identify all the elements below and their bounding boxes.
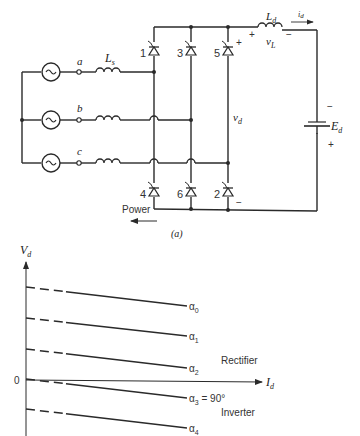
current-arrow: id — [291, 10, 313, 22]
thyristor-5: 5 — [214, 41, 233, 59]
phase-c: c — [22, 145, 230, 172]
negative-rail — [154, 209, 317, 211]
vl-label: vL — [266, 35, 276, 50]
dc-source-ed — [304, 122, 330, 134]
vd-plus: + — [236, 37, 242, 48]
ed-plus: + — [328, 139, 334, 150]
line-label: α3 = 90° — [189, 393, 225, 406]
phase-label-b: b — [77, 102, 83, 114]
svg-text:5: 5 — [214, 47, 220, 59]
circuit-diagram: a b c — [20, 10, 343, 240]
x-axis-label: Id — [265, 375, 275, 391]
vl-plus: + — [249, 29, 255, 40]
vd-id-graph: Vd Id 0 α0α1α2α3 = 90°α4 Rectifier Inver… — [14, 243, 275, 436]
inductor-icon — [96, 68, 120, 72]
thyristor-2: 2 — [214, 182, 233, 200]
phase-label-c: c — [77, 145, 82, 157]
ed-label: Ed — [330, 119, 343, 135]
origin-label: 0 — [14, 375, 20, 386]
svg-text:id: id — [298, 10, 304, 20]
thyristor-1: 1 — [140, 41, 159, 59]
region-inverter-label: Inverter — [221, 407, 256, 418]
vd-minus: − — [236, 197, 242, 208]
phase-a: a — [22, 55, 156, 81]
thyristor-4: 4 — [140, 182, 159, 200]
line-label: α4 — [189, 423, 199, 436]
line-label: α2 — [189, 363, 199, 376]
y-axis-label: Vd — [20, 243, 32, 259]
characteristic-lines: α0α1α2α3 = 90°α4 — [26, 287, 225, 436]
vd-label: vd — [233, 111, 243, 126]
line-alpha-1: α1 — [26, 318, 199, 344]
power-label: Power — [122, 204, 151, 215]
ac-source-icon — [42, 111, 60, 129]
x-axis — [26, 380, 262, 382]
dc-inductor-icon — [258, 23, 282, 27]
line-alpha-0: α0 — [26, 287, 199, 314]
line-alpha-3: α3 = 90° — [26, 379, 225, 406]
inductor-icon — [96, 159, 120, 163]
phase-label-a: a — [77, 55, 83, 67]
svg-text:3: 3 — [177, 47, 183, 59]
region-rectifier-label: Rectifier — [221, 355, 258, 366]
svg-text:6: 6 — [177, 188, 183, 200]
figure-caption: (a) — [171, 228, 183, 240]
source-inductance-label: Ls — [104, 51, 115, 67]
thyristor-3: 3 — [177, 41, 196, 59]
line-alpha-4: α4 — [26, 409, 199, 436]
line-label: α1 — [189, 331, 199, 344]
converter-figure: a b c — [0, 0, 360, 436]
svg-text:4: 4 — [140, 188, 146, 200]
ac-source-icon — [42, 63, 60, 81]
inductor-icon — [96, 116, 120, 120]
svg-text:1: 1 — [140, 47, 146, 59]
phase-b: b — [22, 102, 193, 129]
thyristor-6: 6 — [177, 182, 196, 200]
ac-source-icon — [42, 154, 60, 172]
line-alpha-2: α2 — [26, 349, 199, 376]
line-label: α0 — [189, 301, 199, 314]
ed-minus: − — [327, 101, 333, 112]
svg-text:2: 2 — [214, 188, 220, 200]
vl-minus: − — [286, 29, 292, 40]
